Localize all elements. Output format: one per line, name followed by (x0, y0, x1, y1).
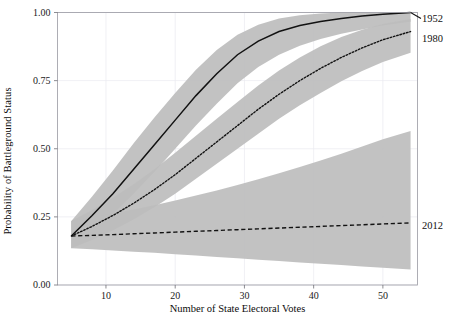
confidence-bands (71, 13, 410, 270)
top-edge-artifact (0, 0, 458, 9)
series-label-1980: 1980 (422, 33, 443, 44)
svg-text:10: 10 (101, 290, 111, 301)
series-label-2012: 2012 (422, 220, 443, 231)
series-label-2012-group: 2012 (422, 220, 443, 231)
svg-text:0.00: 0.00 (33, 279, 51, 290)
probability-of-battleground-status-line-chart: 1020304050 0.000.250.500.751.00 1952 198… (0, 0, 458, 322)
series-label-1952: 1952 (422, 13, 443, 24)
series-label-1952-group: 1952 (411, 13, 443, 24)
svg-text:40: 40 (309, 290, 319, 301)
x-axis-ticks: 1020304050 (101, 285, 388, 301)
svg-text:50: 50 (378, 290, 388, 301)
x-axis-title: Number of State Electoral Votes (57, 303, 418, 314)
series-label-1980-group: 1980 (422, 33, 443, 44)
y-axis-ticks: 0.000.250.500.751.00 (33, 7, 58, 291)
svg-text:30: 30 (239, 290, 249, 301)
svg-text:0.25: 0.25 (33, 211, 51, 222)
svg-text:20: 20 (170, 290, 180, 301)
svg-text:0.75: 0.75 (33, 75, 51, 86)
chart-figure: 1020304050 0.000.250.500.751.00 1952 198… (0, 0, 458, 322)
leader-line-1952 (411, 13, 421, 19)
svg-text:0.50: 0.50 (33, 143, 51, 154)
